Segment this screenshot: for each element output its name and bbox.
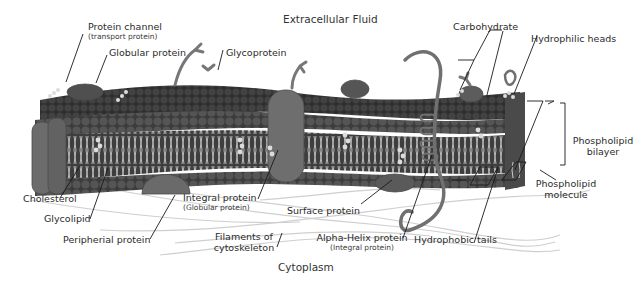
label-glycolipid: Glycolipid: [44, 213, 91, 224]
label-alpha-helix-sub: (Integral protein): [314, 243, 410, 252]
label-filaments-of-cytoskeleton: Filaments of cytoskeleton: [208, 231, 280, 253]
label-phospholipid-molecule-line1: Phospholipid: [530, 178, 602, 189]
label-phospholipid-molecule-line2: molecule: [530, 189, 602, 200]
label-phospholipid-bilayer: Phospholipid bilayer: [566, 135, 640, 157]
label-protein-channel-sub: (transport protein): [88, 32, 162, 41]
bilayer-bracket: [560, 103, 565, 165]
label-alpha-helix-main: Alpha-Helix protein: [316, 232, 407, 243]
label-globular-protein: Globular protein: [109, 47, 186, 58]
label-filaments-line1: Filaments of: [208, 231, 280, 242]
label-hydrophilic-heads: Hydrophilic heads: [531, 33, 616, 44]
label-phospholipid-bilayer-line1: Phospholipid: [566, 135, 640, 146]
label-integral-protein: Integral protein (Globular protein): [183, 192, 257, 212]
region-extracellular-fluid: Extracellular Fluid: [283, 14, 378, 25]
label-carbohydrate: Carbohydrate: [453, 21, 518, 32]
label-phospholipid-molecule: Phospholipid molecule: [530, 178, 602, 200]
label-cholesterol: Cholesterol: [23, 193, 77, 204]
label-integral-protein-sub: (Globular protein): [183, 203, 257, 212]
label-glycoprotein: Glycoprotein: [226, 47, 286, 58]
label-alpha-helix-protein: Alpha-Helix protein (Integral protein): [314, 232, 410, 252]
label-protein-channel: Protein channel (transport protein): [88, 21, 162, 41]
label-protein-channel-main: Protein channel: [88, 21, 162, 32]
region-cytoplasm: Cytoplasm: [278, 262, 334, 273]
label-hydrophobic-tails: Hydrophobic tails: [414, 234, 497, 245]
cell-membrane-diagram: Extracellular Fluid Cytoplasm Protein ch…: [0, 0, 643, 288]
label-peripheral-protein: Peripherial protein: [63, 234, 150, 245]
integral-protein-shape: [268, 90, 304, 182]
label-integral-protein-main: Integral protein: [183, 192, 257, 203]
label-filaments-line2: cytoskeleton: [208, 242, 280, 253]
label-surface-protein: Surface protein: [287, 205, 360, 216]
label-phospholipid-bilayer-line2: bilayer: [566, 146, 640, 157]
